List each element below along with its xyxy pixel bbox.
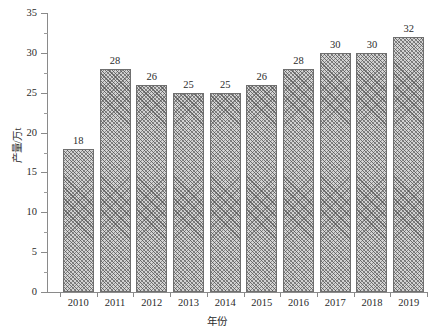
bar (100, 69, 131, 292)
bar (246, 85, 277, 292)
x-tick-label: 2012 (132, 298, 172, 309)
y-tick-label: 15 (9, 167, 37, 178)
bar (356, 53, 387, 292)
x-axis-title: 年份 (0, 313, 433, 328)
x-tick-label: 2016 (279, 298, 319, 309)
y-tick-major (41, 172, 48, 173)
bar-value-label: 25 (168, 80, 208, 91)
y-tick-major (41, 53, 48, 54)
y-tick-label: 0 (9, 287, 37, 298)
x-tick-label: 2018 (352, 298, 392, 309)
x-tick (133, 292, 134, 297)
y-tick-label: 5 (9, 247, 37, 258)
y-tick-major (41, 133, 48, 134)
x-tick (427, 292, 428, 297)
bar-value-label: 32 (389, 24, 429, 35)
x-tick-label: 2010 (58, 298, 98, 309)
x-tick (97, 292, 98, 297)
y-tick-minor (44, 33, 48, 34)
bar-value-label: 30 (352, 40, 392, 51)
x-tick (207, 292, 208, 297)
x-tick-label: 2011 (95, 298, 135, 309)
y-tick-minor (44, 113, 48, 114)
bar-value-label: 28 (95, 56, 135, 67)
y-tick-minor (44, 73, 48, 74)
x-tick (354, 292, 355, 297)
bar-value-label: 30 (315, 40, 355, 51)
y-tick-label: 25 (9, 88, 37, 99)
bar (210, 93, 241, 292)
y-tick-minor (44, 272, 48, 273)
bar (63, 149, 94, 292)
x-tick (280, 292, 281, 297)
y-tick-label: 30 (9, 48, 37, 59)
y-tick-major (41, 292, 48, 293)
y-tick-minor (44, 192, 48, 193)
bar (393, 37, 424, 292)
x-tick (170, 292, 171, 297)
y-tick-major (41, 13, 48, 14)
bar-value-label: 26 (242, 72, 282, 83)
y-tick-label: 20 (9, 128, 37, 139)
bar-value-label: 25 (205, 80, 245, 91)
x-tick (317, 292, 318, 297)
y-tick-major (41, 252, 48, 253)
x-axis-line (47, 292, 427, 293)
x-tick (390, 292, 391, 297)
x-tick-label: 2019 (389, 298, 429, 309)
y-tick-major (41, 212, 48, 213)
bar (283, 69, 314, 292)
x-tick-label: 2014 (205, 298, 245, 309)
bar-value-label: 28 (279, 56, 319, 67)
bar-value-label: 26 (132, 72, 172, 83)
x-tick-label: 2015 (242, 298, 282, 309)
y-tick-label: 10 (9, 207, 37, 218)
bar (173, 93, 204, 292)
y-tick-minor (44, 232, 48, 233)
bar-chart-figure: 产量/万t 年份 05101520253035 2010201120122013… (0, 0, 433, 336)
bar (136, 85, 167, 292)
y-tick-major (41, 93, 48, 94)
y-tick-minor (44, 153, 48, 154)
x-tick-label: 2017 (315, 298, 355, 309)
bar (320, 53, 351, 292)
y-tick-label: 35 (9, 8, 37, 19)
x-tick (60, 292, 61, 297)
x-tick (244, 292, 245, 297)
bar-value-label: 18 (58, 136, 98, 147)
x-tick-label: 2013 (168, 298, 208, 309)
